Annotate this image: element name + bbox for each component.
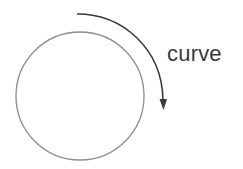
- curve-arrow: [77, 14, 163, 100]
- diagram-canvas: curve: [0, 0, 243, 169]
- curve-label: curve: [167, 43, 222, 65]
- arrowhead-icon: [160, 99, 168, 110]
- diagram-svg: [0, 0, 243, 169]
- circle-shape: [16, 32, 144, 160]
